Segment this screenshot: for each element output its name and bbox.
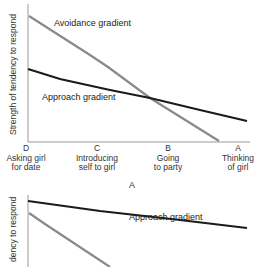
top-y-axis-label: Strength of tendency to respond <box>8 14 18 135</box>
bottom-y-axis-label: dency to respond <box>8 197 18 262</box>
tick-line2: self to girl <box>76 163 118 173</box>
tick-line2: to party <box>154 163 182 173</box>
bottom-avoidance-line <box>29 213 110 267</box>
tick-c: C Introducing self to girl <box>76 144 118 173</box>
panel-label-a: A <box>129 180 135 190</box>
tick-line2: of girl <box>222 163 254 173</box>
tick-b: B Going to party <box>154 144 182 173</box>
approach-gradient-label: Approach gradient <box>42 92 116 102</box>
bottom-approach-gradient-label: Approach gradient <box>129 212 203 222</box>
avoidance-gradient-label: Avoidance gradient <box>54 18 131 28</box>
chart-canvas <box>0 0 261 267</box>
tick-d: D Asking girl for date <box>6 144 45 173</box>
tick-line2: for date <box>6 163 45 173</box>
tick-a: A Thinking of girl <box>222 144 254 173</box>
